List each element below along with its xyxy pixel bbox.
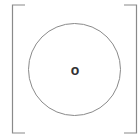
diagram-canvas: o xyxy=(0,0,140,135)
right-bracket xyxy=(124,5,137,133)
center-label: o xyxy=(71,62,80,78)
left-bracket xyxy=(13,5,26,133)
